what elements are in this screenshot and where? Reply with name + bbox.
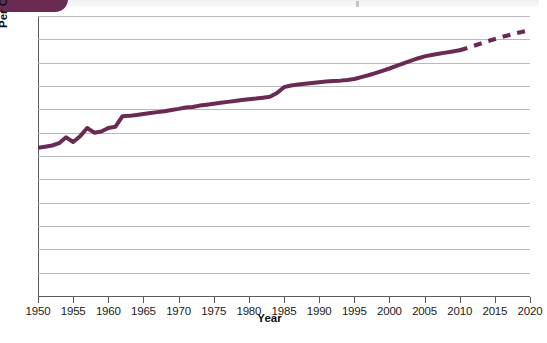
page-artifact-mark [356,1,359,7]
x-tick-1970 [179,297,180,303]
plot-area: 0102030405060708090100110120 19501955196… [38,16,530,296]
x-tick-1960 [108,297,109,303]
x-tick-2010 [460,297,461,303]
figure-number-badge [0,0,68,12]
x-tick-1955 [73,297,74,303]
page-top-band [0,0,539,7]
x-tick-1985 [284,297,285,303]
x-tick-1975 [214,297,215,303]
data-line-historical [38,50,460,148]
x-tick-2000 [389,297,390,303]
data-line-projected [460,30,530,50]
y-axis-title: Per Capita Food Production [0,0,9,62]
x-tick-1980 [249,297,250,303]
x-tick-1990 [319,297,320,303]
x-tick-label-2020: 2020 [507,305,547,317]
x-tick-2020 [530,297,531,303]
x-tick-2005 [425,297,426,303]
x-tick-2015 [495,297,496,303]
chart-line-svg [38,16,530,297]
x-tick-1950 [38,297,39,303]
x-tick-1995 [354,297,355,303]
x-tick-1965 [143,297,144,303]
